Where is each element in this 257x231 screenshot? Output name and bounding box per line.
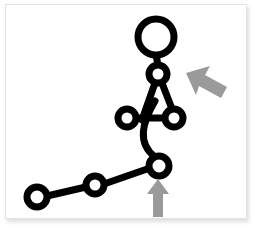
arrow-group <box>147 66 227 217</box>
skeleton-diagram <box>6 5 247 219</box>
joint-knee[interactable] <box>86 176 104 194</box>
hip-arrow-icon <box>147 179 169 217</box>
bone-knee-to-foot <box>47 187 86 196</box>
bone-hip-to-knee <box>104 168 150 184</box>
joint-neck[interactable] <box>149 65 167 83</box>
bone-neck-to-right-hand <box>162 83 172 109</box>
joint-hip[interactable] <box>149 156 169 176</box>
upper-body-arrow-icon <box>186 66 227 98</box>
screenshot-stage <box>0 0 257 231</box>
joint-head[interactable] <box>138 19 174 55</box>
figure-card <box>5 4 247 219</box>
joint-foot[interactable] <box>27 187 47 207</box>
joint-group <box>27 19 183 207</box>
joint-right-hand[interactable] <box>165 109 183 127</box>
joint-left-hand[interactable] <box>118 109 136 127</box>
